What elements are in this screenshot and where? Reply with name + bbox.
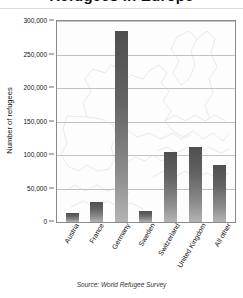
bar-united-kingdom[interactable] <box>189 147 202 222</box>
bar-series <box>57 21 235 222</box>
y-tick-mark-50000 <box>49 187 54 188</box>
x-tick-label-france: France <box>88 222 105 244</box>
title-divider <box>0 8 243 9</box>
chart-title-clipped: Refugees in Europe <box>0 0 243 7</box>
x-tick-label-switzerland: Switzerland <box>157 222 181 257</box>
y-tick-label-300000: 300,000 <box>24 17 48 24</box>
bar-france[interactable] <box>90 202 103 222</box>
bar-all-other[interactable] <box>213 165 226 222</box>
bar-sweden[interactable] <box>139 211 152 222</box>
x-tick-label-germany: Germany <box>110 222 130 250</box>
bar-austria[interactable] <box>66 213 79 222</box>
y-tick-label-250000: 250,000 <box>24 50 48 57</box>
x-tick-label-united-kingdom: United Kingdom <box>176 222 207 269</box>
y-tick-label-100000: 100,000 <box>24 151 48 158</box>
y-tick-mark-150000 <box>49 120 54 121</box>
x-axis-labels: AustriaFranceGermanySwedenSwitzerlandUni… <box>56 222 234 276</box>
y-tick-label-50000: 50,000 <box>27 184 47 191</box>
y-tick-mark-300000 <box>49 20 54 21</box>
y-tick-mark-0 <box>49 221 54 222</box>
y-axis-title: Number of refugees <box>5 71 14 171</box>
x-tick-label-sweden: Sweden <box>137 222 156 247</box>
bar-switzerland[interactable] <box>164 152 177 222</box>
y-tick-mark-250000 <box>49 53 54 54</box>
y-tick-label-0: 0 <box>43 218 47 225</box>
x-tick-label-all-other: All other <box>213 222 232 248</box>
bar-germany[interactable] <box>115 31 128 222</box>
source-note: Source: World Refugee Survey <box>0 281 243 288</box>
y-tick-label-150000: 150,000 <box>24 117 48 124</box>
page-title: Refugees in Europe <box>0 0 243 4</box>
y-tick-mark-100000 <box>49 154 54 155</box>
x-tick-label-austria: Austria <box>63 222 80 244</box>
y-tick-label-200000: 200,000 <box>24 84 48 91</box>
y-tick-mark-200000 <box>49 87 54 88</box>
chart-figure: Refugees in Europe Number of refugees 05… <box>0 0 243 298</box>
plot-area <box>56 20 236 223</box>
y-axis: Number of refugees 050,000100,000150,000… <box>0 20 54 221</box>
